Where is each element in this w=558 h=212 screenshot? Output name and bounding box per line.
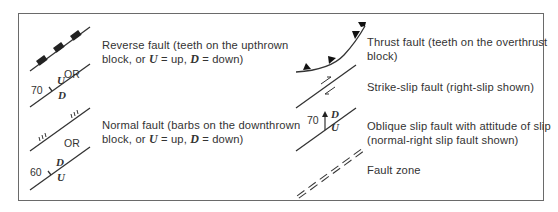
reverse-or-label: OR xyxy=(64,68,80,80)
oblique-slip-fault-description: Oblique slip fault with attitude of slip… xyxy=(367,119,551,147)
thrust-fault-line1: Thrust fault (teeth on the overthrust xyxy=(367,35,547,49)
normal-fault-line1: Normal fault (barbs on the downthrown xyxy=(102,118,300,132)
strike-slip-fault-description: Strike-slip fault (right-slip shown) xyxy=(367,80,534,94)
reverse-upper-label: U xyxy=(57,74,66,86)
oblique-dip-label: 70 xyxy=(307,114,319,126)
fault-symbols: OR 70 U D OR 60 D U 70 D U xyxy=(0,0,558,212)
normal-upper-label: D xyxy=(55,156,64,168)
normal-dip-label: 60 xyxy=(30,166,42,178)
thrust-fault-symbol xyxy=(296,22,366,72)
normal-fault-description: Normal fault (barbs on the downthrown bl… xyxy=(102,118,300,146)
reverse-fault-line1: Reverse fault (teeth on the upthrown xyxy=(102,38,288,52)
strike-slip-fault-line1: Strike-slip fault (right-slip shown) xyxy=(367,80,534,94)
oblique-slip-fault-line1: Oblique slip fault with attitude of slip xyxy=(367,119,551,133)
oblique-upper-label: D xyxy=(330,108,339,120)
normal-lower-label: U xyxy=(57,171,66,183)
thrust-fault-description: Thrust fault (teeth on the overthrust bl… xyxy=(367,35,547,63)
fault-zone-line1: Fault zone xyxy=(367,163,421,177)
oblique-slip-fault-symbol xyxy=(296,108,356,151)
fault-zone-symbol xyxy=(297,149,363,198)
normal-or-label: OR xyxy=(64,137,80,149)
normal-fault-barbs-symbol xyxy=(30,108,90,151)
thrust-fault-line2: block) xyxy=(367,49,547,63)
fault-zone-description: Fault zone xyxy=(367,163,421,177)
reverse-lower-label: D xyxy=(57,89,66,101)
reverse-dip-label: 70 xyxy=(31,84,43,96)
reverse-fault-teeth-symbol xyxy=(30,27,90,71)
reverse-fault-line2: block, or U = up, D = down) xyxy=(102,52,288,66)
normal-fault-line2: block, or U = up, D = down) xyxy=(102,132,300,146)
oblique-slip-fault-line2: (normal-right slip fault shown) xyxy=(367,133,551,147)
oblique-lower-label: U xyxy=(331,121,340,133)
reverse-fault-description: Reverse fault (teeth on the upthrown blo… xyxy=(102,38,288,66)
